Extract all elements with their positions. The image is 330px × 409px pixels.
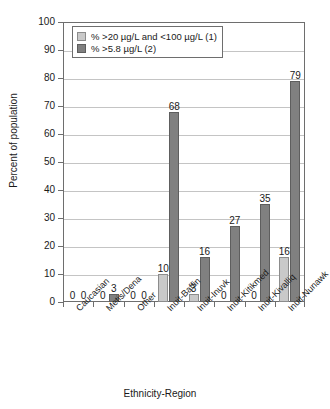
legend-label: % >20 µg/L and <100 µg/L (1) — [91, 31, 217, 42]
bar-group: 03 — [93, 22, 123, 302]
y-axis-tick-label: 100 — [38, 17, 55, 27]
bar-value-label: 79 — [290, 70, 301, 81]
bar-value-label: 16 — [199, 246, 210, 257]
y-axis-tick-label: 40 — [44, 185, 55, 195]
bar: 35 — [260, 204, 270, 302]
y-axis-tick-label: 20 — [44, 241, 55, 251]
bar-group: 027 — [214, 22, 244, 302]
x-axis-title: Ethnicity-Region — [0, 388, 320, 399]
y-axis-tick-label: 80 — [44, 73, 55, 83]
bar-value-label: 0 — [70, 290, 76, 301]
x-axis-labels: CaucasianMetis/DenaOtherInuit-BaffinInui… — [63, 306, 305, 381]
legend-item: % >20 µg/L and <100 µg/L (1) — [77, 30, 217, 42]
bar-group: 316 — [184, 22, 214, 302]
bar: 79 — [290, 81, 300, 302]
bar-group: 1679 — [275, 22, 305, 302]
legend-swatch — [77, 32, 86, 41]
legend-label: % >5.8 µg/L (2) — [91, 43, 156, 54]
bar-value-label: 35 — [260, 193, 271, 204]
y-axis-tick-label: 30 — [44, 213, 55, 223]
bar-group: 1068 — [154, 22, 184, 302]
legend-swatch — [77, 44, 86, 53]
bar-value-label: 68 — [169, 101, 180, 112]
legend-item: % >5.8 µg/L (2) — [77, 42, 217, 54]
bar-value-label: 16 — [279, 246, 290, 257]
y-axis: 0102030405060708090100 — [0, 22, 63, 303]
bar-value-label: 27 — [229, 215, 240, 226]
y-axis-tick-label: 60 — [44, 129, 55, 139]
bar-value-label: 3 — [111, 283, 117, 294]
y-axis-tick-label: 70 — [44, 101, 55, 111]
bar-value-label: 10 — [158, 263, 169, 274]
y-axis-tick-label: 10 — [44, 269, 55, 279]
bar-group: 00 — [63, 22, 93, 302]
bar: 68 — [169, 112, 179, 302]
bar-group: 035 — [245, 22, 275, 302]
y-axis-tick-label: 0 — [49, 297, 55, 307]
legend: % >20 µg/L and <100 µg/L (1)% >5.8 µg/L … — [72, 26, 223, 58]
y-axis-tick-label: 50 — [44, 157, 55, 167]
bars-layer: 00030010683160270351679 — [63, 22, 305, 302]
bar: 10 — [158, 274, 168, 302]
y-axis-tick-label: 90 — [44, 45, 55, 55]
bar-group: 00 — [124, 22, 154, 302]
